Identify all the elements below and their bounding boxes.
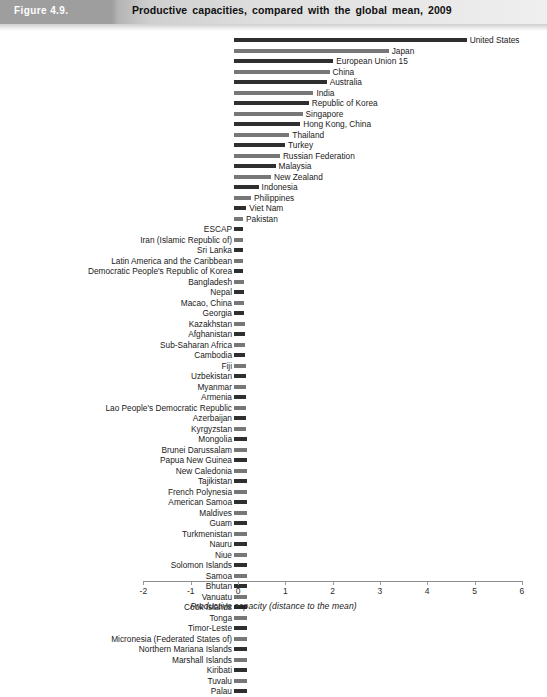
bar-row: Kyrgyzstan <box>0 425 547 435</box>
bar-label: India <box>316 88 334 98</box>
bar-label: Hong Kong, China <box>303 119 371 129</box>
x-axis-tick-label: -1 <box>176 586 206 596</box>
x-axis-tick <box>238 582 239 585</box>
bar-label: Armenia <box>201 392 232 402</box>
bar <box>234 574 247 578</box>
bar <box>234 563 247 567</box>
bar-chart-plot-area: United StatesJapanEuropean Union 15China… <box>0 34 547 582</box>
bar-row: Tonga <box>0 614 547 624</box>
bar-row: Palau <box>0 687 547 697</box>
x-axis-tick-label: 4 <box>412 586 442 596</box>
bar-row: Japan <box>0 47 547 57</box>
bar <box>234 91 313 95</box>
bar-label: Viet Nam <box>249 203 283 213</box>
bar <box>234 626 247 630</box>
bar <box>234 80 327 84</box>
bar <box>234 647 247 651</box>
bar-label: Mongolia <box>198 434 232 444</box>
bar-label: Niue <box>215 550 232 560</box>
bar-label: Iran (Islamic Republic of) <box>140 235 232 245</box>
bar-row: Micronesia (Federated States of) <box>0 635 547 645</box>
bar-row: Turkmenistan <box>0 530 547 540</box>
bar <box>234 322 245 326</box>
bar-row: Pakistan <box>0 215 547 225</box>
bar-row: Azerbaijan <box>0 414 547 424</box>
bar-label: Sub-Saharan Africa <box>160 340 232 350</box>
bar-row: Mongolia <box>0 435 547 445</box>
bar-label: Guam <box>209 518 232 528</box>
bar <box>234 206 246 210</box>
bar-row: Guam <box>0 519 547 529</box>
bar-label: Solomon Islands <box>171 560 232 570</box>
bar <box>234 427 246 431</box>
bar-row: Northern Mariana Islands <box>0 645 547 655</box>
bar <box>234 521 247 525</box>
bar <box>234 196 251 200</box>
bar-label: Brunei Darussalam <box>161 445 232 455</box>
bar-row: Bangladesh <box>0 278 547 288</box>
bar <box>234 185 259 189</box>
bar <box>234 311 244 315</box>
bar-label: French Polynesia <box>168 487 232 497</box>
x-axis-tick-label: 3 <box>365 586 395 596</box>
bar-label: New Caledonia <box>176 466 232 476</box>
bar-row: Hong Kong, China <box>0 120 547 130</box>
bar <box>234 668 247 672</box>
x-axis-tick-label: 5 <box>460 586 490 596</box>
x-axis-tick <box>191 582 192 585</box>
bar-row: Maldives <box>0 509 547 519</box>
bar-row: Macao, China <box>0 299 547 309</box>
bar-label: Tuvalu <box>207 676 232 686</box>
bar-label: Sri Lanka <box>197 245 232 255</box>
bar-label: Republic of Korea <box>312 98 378 108</box>
x-axis-tick <box>522 582 523 585</box>
bar-label: Timor-Leste <box>188 623 232 633</box>
bar-row: Samoa <box>0 572 547 582</box>
bar <box>234 479 247 483</box>
bar-label: Tonga <box>209 613 232 623</box>
bar-row: Iran (Islamic Republic of) <box>0 236 547 246</box>
bar <box>234 38 467 42</box>
bar-label: Singapore <box>306 109 344 119</box>
bar-row: Tajikistan <box>0 477 547 487</box>
bar <box>234 616 247 620</box>
x-axis-tick-label: 0 <box>223 586 253 596</box>
bar <box>234 490 247 494</box>
bar <box>234 353 245 357</box>
bar <box>234 238 243 242</box>
bar-label: Kiribati <box>207 665 232 675</box>
bar-row: Papua New Guinea <box>0 456 547 466</box>
bar <box>234 395 246 399</box>
bar <box>234 70 330 74</box>
bar-label: American Samoa <box>168 497 232 507</box>
bar <box>234 49 389 53</box>
x-axis-tick <box>143 582 144 585</box>
x-axis-tick <box>333 582 334 585</box>
bar <box>234 658 247 662</box>
bar <box>234 511 247 515</box>
bar-row: Turkey <box>0 141 547 151</box>
bar-row: Singapore <box>0 110 547 120</box>
bar-label: Azerbaijan <box>193 413 232 423</box>
bar-label: Malaysia <box>279 161 312 171</box>
bar-row: China <box>0 68 547 78</box>
x-axis-tick <box>427 582 428 585</box>
bar <box>234 164 276 168</box>
bar-row: Nepal <box>0 288 547 298</box>
bar-label: Papua New Guinea <box>160 455 232 465</box>
figure-title: Productive capacities, compared with the… <box>132 4 452 16</box>
bar <box>234 122 300 126</box>
bar-label: Tajikistan <box>198 476 232 486</box>
bar <box>234 406 246 410</box>
bar <box>234 227 243 231</box>
bar <box>234 301 244 305</box>
bar-row: New Caledonia <box>0 467 547 477</box>
bar <box>234 458 247 462</box>
bar-row: Uzbekistan <box>0 372 547 382</box>
bar-label: New Zealand <box>274 172 323 182</box>
bar-label: Georgia <box>202 308 232 318</box>
bar-row: Fiji <box>0 362 547 372</box>
bar <box>234 679 247 683</box>
bar <box>234 143 285 147</box>
bar-label: Micronesia (Federated States of) <box>111 634 232 644</box>
